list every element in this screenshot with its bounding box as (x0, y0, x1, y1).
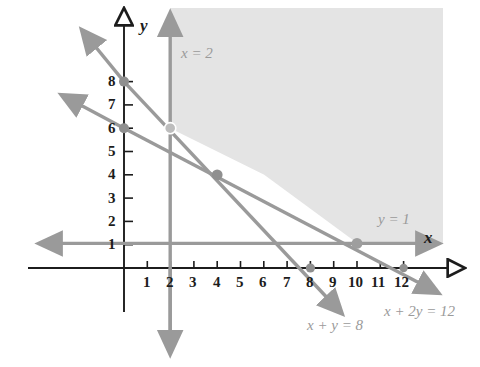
point-12-0 (399, 264, 407, 272)
x-tick-label-10: 10 (348, 275, 363, 290)
graph-figure: 1 2 3 4 5 6 7 8 9 10 11 12 1 2 3 4 5 6 7… (0, 0, 480, 367)
y-tick-label-4: 4 (108, 167, 116, 182)
x-tick-label-5: 5 (236, 275, 244, 290)
x-tick-label-1: 1 (143, 275, 151, 290)
y-tick-label-5: 5 (108, 144, 116, 159)
label-x-plus-2y-12: x + 2y = 12 (384, 304, 455, 319)
label-y-equals-1: y = 1 (378, 212, 410, 227)
x-tick-label-7: 7 (283, 275, 291, 290)
point-8-0 (306, 263, 315, 272)
x-tick-label-3: 3 (189, 275, 197, 290)
y-axis-ticks (124, 82, 133, 245)
x-axis-label: x (424, 229, 433, 246)
x-tick-label-8: 8 (306, 275, 314, 290)
y-axis-label: y (140, 17, 148, 34)
x-axis-ticks (147, 261, 403, 268)
x-tick-label-6: 6 (259, 275, 267, 290)
y-tick-label-8: 8 (108, 74, 116, 89)
x-tick-label-2: 2 (166, 275, 174, 290)
vertex-2-6 (165, 123, 176, 134)
point-0-6 (119, 123, 129, 133)
x-tick-label-4: 4 (213, 275, 221, 290)
y-tick-label-7: 7 (108, 97, 116, 112)
label-x-plus-y-8: x + y = 8 (307, 318, 363, 333)
y-tick-label-2: 2 (108, 214, 116, 229)
y-tick-label-1: 1 (108, 237, 116, 252)
x-tick-label-11: 11 (371, 275, 385, 290)
vertex-10-1 (352, 238, 363, 249)
point-0-8 (119, 77, 129, 87)
vertex-4-4 (212, 169, 223, 180)
feasible-region-shading (170, 8, 443, 243)
x-tick-label-12: 12 (394, 275, 409, 290)
x-tick-label-9: 9 (329, 275, 337, 290)
y-tick-label-6: 6 (108, 121, 116, 136)
label-x-equals-2: x = 2 (181, 46, 213, 61)
y-tick-label-3: 3 (108, 191, 116, 206)
